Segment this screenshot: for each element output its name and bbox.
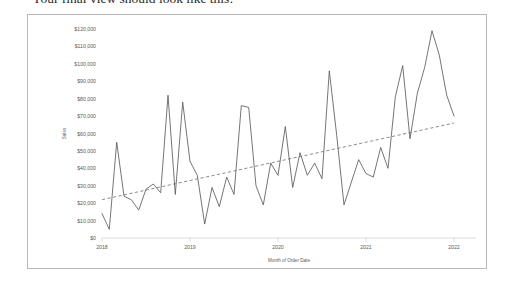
x-axis-title: Month of Order Date [268,258,310,263]
y-tick-label: $100,000 [74,61,96,67]
sales-series-line [102,31,454,230]
x-axis: 20182019202020212022 [96,238,476,250]
y-tick-label: $30,000 [77,183,96,189]
y-tick-label: $110,000 [75,43,96,49]
y-tick-label: $40,000 [77,165,96,171]
x-tick-label: 2021 [360,244,372,250]
x-tick-label: 2019 [184,244,196,250]
sales-line-chart: $0$10,000$20,000$30,000$40,000$50,000$60… [28,15,486,268]
y-tick-label: $120,000 [74,26,96,32]
trend-line [102,123,454,200]
y-tick-label: $20,000 [77,200,96,206]
x-tick-label: 2022 [448,244,460,250]
y-axis: $0$10,000$20,000$30,000$40,000$50,000$60… [74,26,96,241]
y-tick-label: $0 [90,235,96,241]
y-tick-label: $90,000 [77,78,96,84]
y-tick-label: $10,000 [77,218,96,224]
y-tick-label: $60,000 [77,131,96,137]
x-tick-label: 2020 [272,244,284,250]
y-tick-label: $80,000 [77,96,96,102]
page-heading: Your final view should look like this: [32,0,233,7]
chart-card: $0$10,000$20,000$30,000$40,000$50,000$60… [27,14,487,269]
heading-strip: Your final view should look like this: [0,0,505,11]
y-tick-label: $70,000 [77,113,96,119]
x-tick-label: 2018 [96,244,108,250]
y-tick-label: $50,000 [77,148,96,154]
y-axis-title: Sales [62,127,67,139]
